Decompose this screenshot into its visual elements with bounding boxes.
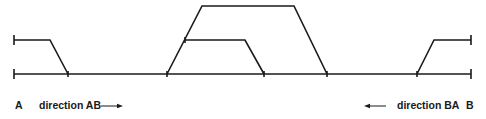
left-siding-track — [14, 40, 68, 74]
direction-ba-label: direction BA — [397, 99, 459, 111]
endpoint-label-b: B — [466, 99, 474, 111]
right-siding-track — [417, 40, 471, 74]
right-arrow-icon — [101, 102, 123, 110]
direction-ab-label: direction AB — [39, 99, 101, 111]
endpoint-label-a: A — [15, 99, 23, 111]
inner-loop-track — [185, 40, 264, 74]
left-arrow-icon — [364, 102, 386, 110]
